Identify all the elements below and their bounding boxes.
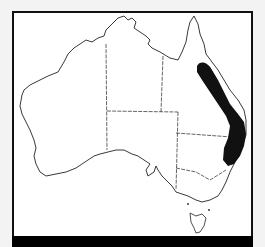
caption-text	[12, 236, 253, 247]
species-range	[197, 63, 246, 166]
mainland-outline	[20, 16, 246, 202]
tasmania-outline	[190, 213, 206, 233]
state-borders	[106, 44, 232, 190]
australia-map	[0, 0, 265, 247]
